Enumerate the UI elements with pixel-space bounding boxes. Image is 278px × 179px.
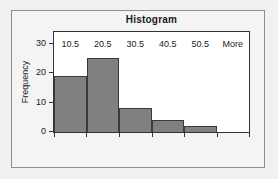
bar (87, 58, 120, 132)
bar (184, 126, 217, 132)
x-axis-tick (119, 132, 120, 137)
y-axis-tick: 20 (49, 72, 54, 73)
plot-inner: 010203010.520.530.540.550.5More (54, 32, 249, 132)
x-axis-tick (86, 132, 87, 137)
x-axis-tick-label: 10.5 (61, 39, 79, 49)
x-axis-tick-label: More (222, 39, 243, 49)
y-axis-tick-label: 10 (36, 97, 46, 107)
histogram-screenshot: Histogram Frequency 010203010.520.530.54… (0, 0, 278, 179)
bar (152, 120, 185, 132)
y-axis-tick: 30 (49, 43, 54, 44)
y-axis-title: Frequency (18, 31, 32, 133)
y-axis-tick-label: 20 (36, 67, 46, 77)
x-axis-tick-label: 50.5 (191, 39, 209, 49)
x-axis-tick (152, 132, 153, 137)
bar (54, 76, 87, 132)
x-axis-tick (249, 132, 250, 137)
x-axis-tick-label: 20.5 (94, 39, 112, 49)
bar (119, 108, 152, 132)
bar-series (54, 32, 249, 132)
x-axis-tick-label: 30.5 (126, 39, 144, 49)
y-axis-title-label: Frequency (20, 61, 30, 104)
x-axis-tick (184, 132, 185, 137)
x-axis-tick (217, 132, 218, 137)
y-axis-tick-label: 0 (41, 126, 46, 136)
y-axis-tick-label: 30 (36, 38, 46, 48)
chart-title: Histogram (53, 14, 250, 25)
y-axis-tick: 10 (49, 102, 54, 103)
x-axis-tick (54, 132, 55, 137)
plot-area: 010203010.520.530.540.550.5More (53, 31, 250, 133)
x-axis-tick-label: 40.5 (159, 39, 177, 49)
